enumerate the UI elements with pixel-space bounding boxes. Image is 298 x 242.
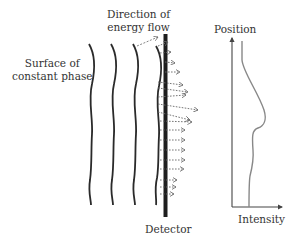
wavefronts: [89, 44, 161, 205]
position-label: Position: [214, 23, 256, 36]
surface-label: Surface of constant phase: [12, 57, 93, 83]
wavefront-4: [156, 46, 162, 205]
intensity-curve: [242, 41, 265, 207]
detector-label: Detector: [145, 223, 192, 236]
intensity-label: Intensity: [238, 213, 285, 226]
direction-label-line2: energy flow: [107, 21, 170, 34]
detector-bar: [164, 34, 168, 217]
diagram-canvas: [0, 0, 298, 242]
surface-label-line2: constant phase: [12, 70, 93, 83]
intensity-plot: [232, 38, 282, 207]
direction-label-line1: Direction of: [107, 8, 170, 21]
wavefront-2: [111, 44, 116, 205]
direction-pointer: [137, 37, 158, 46]
direction-label: Direction of energy flow: [107, 8, 170, 34]
wavefront-3: [133, 44, 138, 205]
surface-label-line1: Surface of: [12, 57, 93, 70]
